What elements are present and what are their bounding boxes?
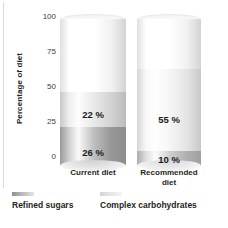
y-tick-25: 25 [26,117,56,126]
segment-label-carbs-recommended: 55 % [137,114,201,125]
x-label-recommended-diet: Recommended diet [137,168,201,188]
segment-complex-carbohydrates-recommended[interactable] [137,69,201,151]
segment-unfilled-current [60,19,126,92]
y-axis-title: Percentage of diet [15,39,24,139]
legend-item-complex-carbohydrates[interactable]: Complex carbohydrates [100,192,197,210]
cylinder-current-diet: 22 % 26 % [60,19,126,166]
legend-label-refined-sugars: Refined sugars [12,200,73,210]
bar-recommended-diet[interactable]: 55 % 10 % Recommended diet [137,14,201,166]
legend-swatch-refined-sugars [12,192,34,196]
y-tick-75: 75 [26,47,56,56]
y-tick-50: 50 [26,82,56,91]
legend-item-refined-sugars[interactable]: Refined sugars [12,192,73,210]
segment-unfilled-recommended [137,19,201,69]
chart-legend: Refined sugars Complex carbohydrates [0,192,228,226]
y-tick-100: 100 [26,12,56,21]
segment-label-sugars-current: 26 % [60,147,126,158]
y-tick-0: 0 [26,152,56,161]
x-label-recommended-diet-line2: diet [137,178,201,188]
x-label-current-diet-line1: Current diet [60,168,126,178]
chart-figure: Percentage of diet 100 75 50 25 0 [0,0,228,228]
plot-area: 22 % 26 % Current diet [56,14,224,166]
x-label-recommended-diet-line1: Recommended [137,168,201,178]
x-label-current-diet: Current diet [60,168,126,178]
legend-label-complex-carbohydrates: Complex carbohydrates [100,200,197,210]
bar-current-diet[interactable]: 22 % 26 % Current diet [60,14,126,166]
figure-left-rule [3,2,4,188]
cylinder-recommended-diet: 55 % 10 % [137,19,201,166]
y-axis-ticks: 100 75 50 25 0 [26,12,56,162]
legend-swatch-complex-carbohydrates [100,192,122,196]
segment-label-sugars-recommended: 10 % [137,154,201,165]
segment-label-carbs-current: 22 % [60,109,126,120]
